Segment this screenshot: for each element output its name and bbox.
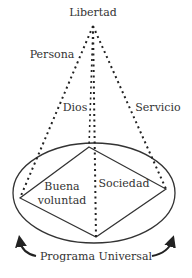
dotted-line-center-inner (89, 26, 93, 147)
dotted-line-center (93, 26, 96, 237)
voluntad-label: voluntad (37, 194, 87, 207)
left-curved-arrow-icon (20, 241, 36, 256)
inner-diamond (20, 147, 166, 237)
servicio-label: Servicio (135, 101, 181, 114)
buena-label: Buena (44, 180, 80, 193)
persona-label: Persona (30, 48, 75, 61)
sociedad-label: Sociedad (99, 177, 150, 190)
base-label: Programa Universal (40, 250, 153, 263)
libertad-cone-diagram: Libertad Persona Dios Servicio Buena vol… (0, 0, 192, 278)
dios-label: Dios (63, 101, 88, 114)
apex-label: Libertad (69, 6, 117, 19)
right-curved-arrow-icon (152, 241, 172, 256)
